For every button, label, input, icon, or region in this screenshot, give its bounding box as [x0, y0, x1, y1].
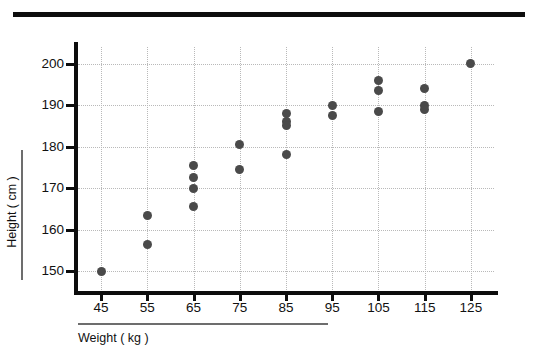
- y-tick-label: 170: [30, 181, 64, 195]
- scatter-point: [189, 173, 198, 182]
- y-axis-line: [74, 42, 78, 295]
- scatter-point: [328, 101, 337, 110]
- x-tick-label: 115: [405, 300, 445, 315]
- y-axis-tick: [66, 270, 75, 273]
- x-tick-label: 85: [266, 300, 306, 315]
- gridline-vertical: [286, 47, 287, 292]
- scatter-point: [420, 84, 429, 93]
- x-tick-label: 65: [174, 300, 214, 315]
- gridline-vertical: [332, 47, 333, 292]
- scatter-point: [143, 211, 152, 220]
- scatter-point: [282, 121, 291, 130]
- y-axis-tick: [66, 63, 75, 66]
- scatter-point: [328, 111, 337, 120]
- top-divider-rule: [13, 12, 525, 17]
- x-tick-label: 55: [127, 300, 167, 315]
- y-tick-label: 200: [30, 57, 64, 71]
- y-tick-label: 180: [30, 140, 64, 154]
- gridline-vertical: [101, 47, 102, 292]
- scatter-point: [189, 161, 198, 170]
- x-tick-label: 125: [451, 300, 491, 315]
- x-axis-title: Weight ( kg ): [78, 330, 149, 346]
- scatter-point: [374, 76, 383, 85]
- y-axis-title-group: Height ( cm ): [0, 150, 22, 280]
- x-axis-title-rule: [78, 323, 328, 325]
- scatter-point: [374, 86, 383, 95]
- y-tick-label: 150: [30, 264, 64, 278]
- scatter-point: [235, 140, 244, 149]
- scatter-point: [97, 267, 106, 276]
- scatter-point: [235, 165, 244, 174]
- gridline-vertical: [471, 47, 472, 292]
- y-axis-tick: [66, 187, 75, 190]
- scatter-point: [466, 59, 475, 68]
- scatter-point: [189, 184, 198, 193]
- figure-canvas: 150160170180190200 Height ( cm ) Weight …: [0, 0, 538, 359]
- scatter-point: [189, 202, 198, 211]
- y-axis-title: Height ( cm ): [5, 152, 19, 272]
- y-axis-tick: [66, 104, 75, 107]
- gridline-vertical: [147, 47, 148, 292]
- x-tick-label: 45: [81, 300, 121, 315]
- x-tick-label: 95: [312, 300, 352, 315]
- x-tick-label: 105: [358, 300, 398, 315]
- y-tick-label-group: 150160170180190200: [24, 0, 64, 359]
- scatter-point: [143, 240, 152, 249]
- x-tick-label: 75: [220, 300, 260, 315]
- y-axis-tick: [66, 146, 75, 149]
- scatter-point: [420, 105, 429, 114]
- y-tick-label: 190: [30, 98, 64, 112]
- y-axis-tick: [66, 229, 75, 232]
- scatter-point: [282, 150, 291, 159]
- y-axis-title-rule: [21, 150, 23, 280]
- plot-area: [78, 47, 494, 292]
- scatter-point: [374, 107, 383, 116]
- y-tick-label: 160: [30, 223, 64, 237]
